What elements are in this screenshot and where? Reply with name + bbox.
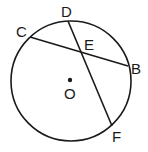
label-d: D: [61, 3, 72, 20]
label-c: C: [16, 23, 27, 40]
label-f: F: [112, 128, 121, 145]
chord-cb: [30, 37, 128, 66]
center-point-dot: [68, 78, 72, 82]
circle-diagram: C D E B F O: [0, 0, 148, 152]
diagram-canvas: C D E B F O: [0, 0, 148, 152]
label-b: B: [131, 60, 141, 77]
label-e: E: [84, 36, 94, 53]
label-o: O: [64, 85, 76, 102]
